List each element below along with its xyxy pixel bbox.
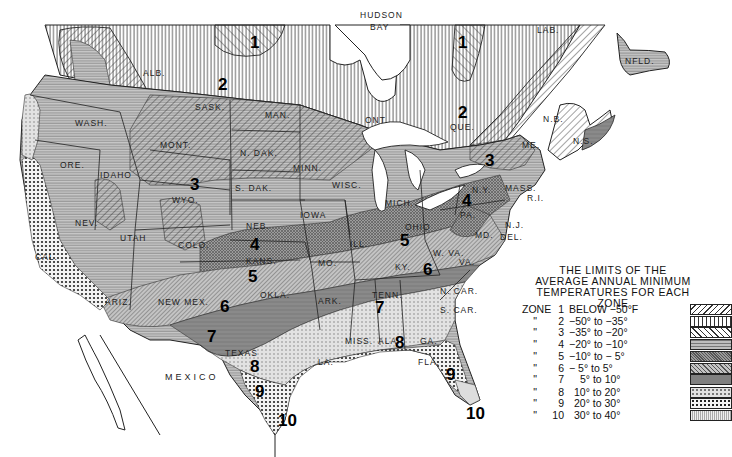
label-hudson-bay-2: BAY <box>370 22 389 32</box>
label-mich: MICH. <box>385 198 414 208</box>
label-lab: LAB. <box>537 25 559 35</box>
label-newmex: NEW MEX. <box>158 297 209 307</box>
legend-row-zone-4: " 4 −20° to −10° <box>522 338 708 350</box>
swatch-zone-5 <box>690 351 732 362</box>
label-ns: N.S. <box>573 136 594 146</box>
swatch-zone-4 <box>690 339 732 350</box>
legend-row-zone-9: " 9 20° to 30° <box>522 397 708 409</box>
baja-peninsula <box>78 335 125 430</box>
svg-text:9: 9 <box>255 382 264 401</box>
label-alb: ALB. <box>143 68 165 78</box>
label-va: VA. <box>459 257 475 267</box>
label-ont: ONT. <box>365 115 388 125</box>
label-kans: KANS. <box>246 256 277 266</box>
label-ariz: ARIZ. <box>105 297 132 307</box>
label-del: DEL. <box>500 232 523 242</box>
label-hudson-bay-1: HUDSON <box>360 10 403 20</box>
label-ark: ARK. <box>318 296 342 306</box>
label-ny: N.Y. <box>472 185 491 195</box>
legend-row-zone-7: " 7 5° to 10° <box>522 373 708 385</box>
swatch-zone-10 <box>690 410 732 421</box>
legend-row-zone-1: ZONE 1 BELOW −50°F <box>522 303 708 315</box>
label-tenn: TENN. <box>372 290 403 300</box>
label-wash: WASH. <box>75 118 108 128</box>
label-man: MAN. <box>265 110 290 120</box>
svg-text:5: 5 <box>400 231 409 250</box>
label-idaho: IDAHO <box>100 170 132 180</box>
label-nj: N.J. <box>505 220 524 230</box>
label-ala: ALA. <box>378 336 400 346</box>
label-colo: COLO. <box>178 240 209 250</box>
svg-text:1: 1 <box>458 33 467 52</box>
svg-text:10: 10 <box>278 411 297 430</box>
svg-text:5: 5 <box>248 267 257 286</box>
svg-text:6: 6 <box>220 297 229 316</box>
label-sdak: S. DAK. <box>235 183 272 193</box>
label-texas: TEXAS <box>225 348 258 358</box>
label-la: LA. <box>318 357 334 367</box>
swatch-zone-1 <box>690 304 732 315</box>
svg-text:2: 2 <box>218 75 227 94</box>
legend-row-zone-5: " 5 −10° to − 5° <box>522 350 708 362</box>
label-ohio: OHIO <box>405 222 431 232</box>
label-que: QUE. <box>450 122 475 132</box>
label-me: ME. <box>522 140 540 150</box>
label-mass: MASS. <box>505 183 536 193</box>
label-wyo: WYO. <box>172 195 199 205</box>
label-utah: UTAH <box>120 233 147 243</box>
label-cal: CAL. <box>35 252 58 262</box>
label-okla: OKLA. <box>260 290 290 300</box>
label-ndak: N. DAK. <box>240 148 278 158</box>
svg-text:8: 8 <box>250 357 259 376</box>
label-sask: SASK. <box>195 102 225 112</box>
label-ga: GA. <box>420 336 438 346</box>
swatch-zone-3 <box>690 327 732 338</box>
label-ill: ILL. <box>350 239 368 249</box>
svg-text:6: 6 <box>423 260 432 279</box>
label-ri: R.I. <box>527 193 544 203</box>
label-md: MD. <box>475 230 494 240</box>
legend-row-zone-10: " 10 30° to 40° <box>522 409 708 421</box>
label-nb: N.B. <box>543 114 564 124</box>
label-miss: MISS. <box>345 336 373 346</box>
label-mo: MO. <box>318 258 337 268</box>
label-pa: PA. <box>460 210 476 220</box>
svg-text:9: 9 <box>446 365 455 384</box>
legend-row-zone-3: " 3 −35° to −20° <box>522 326 708 338</box>
swatch-zone-9 <box>690 398 732 409</box>
newfoundland <box>617 33 669 75</box>
label-fla: FLA. <box>418 357 440 367</box>
label-iowa: IOWA <box>300 210 326 220</box>
svg-text:4: 4 <box>250 235 260 254</box>
svg-text:10: 10 <box>466 404 485 423</box>
svg-text:7: 7 <box>207 327 216 346</box>
svg-text:3: 3 <box>485 151 494 170</box>
svg-text:7: 7 <box>375 298 384 317</box>
swatch-zone-7 <box>690 374 732 385</box>
svg-text:4: 4 <box>462 191 472 210</box>
svg-text:2: 2 <box>458 103 467 122</box>
label-ky: KY. <box>395 262 411 272</box>
svg-text:3: 3 <box>190 175 199 194</box>
label-ore: ORE. <box>60 160 85 170</box>
label-mexico: MEXICO <box>165 372 219 382</box>
label-mont: MONT. <box>160 140 191 150</box>
label-nev: NEV. <box>75 218 98 228</box>
label-neb: NEB. <box>246 221 270 231</box>
label-scar: S. CAR. <box>440 305 478 315</box>
label-wisc: WISC. <box>332 180 362 190</box>
label-nfld: NFLD. <box>625 56 655 66</box>
label-ncar: N. CAR. <box>440 286 478 296</box>
label-wva: W. VA. <box>433 248 464 258</box>
svg-text:1: 1 <box>250 33 259 52</box>
zone-legend: THE LIMITS OF THE AVERAGE ANNUAL MINIMUM… <box>520 265 706 309</box>
label-minn: MINN. <box>293 163 322 173</box>
